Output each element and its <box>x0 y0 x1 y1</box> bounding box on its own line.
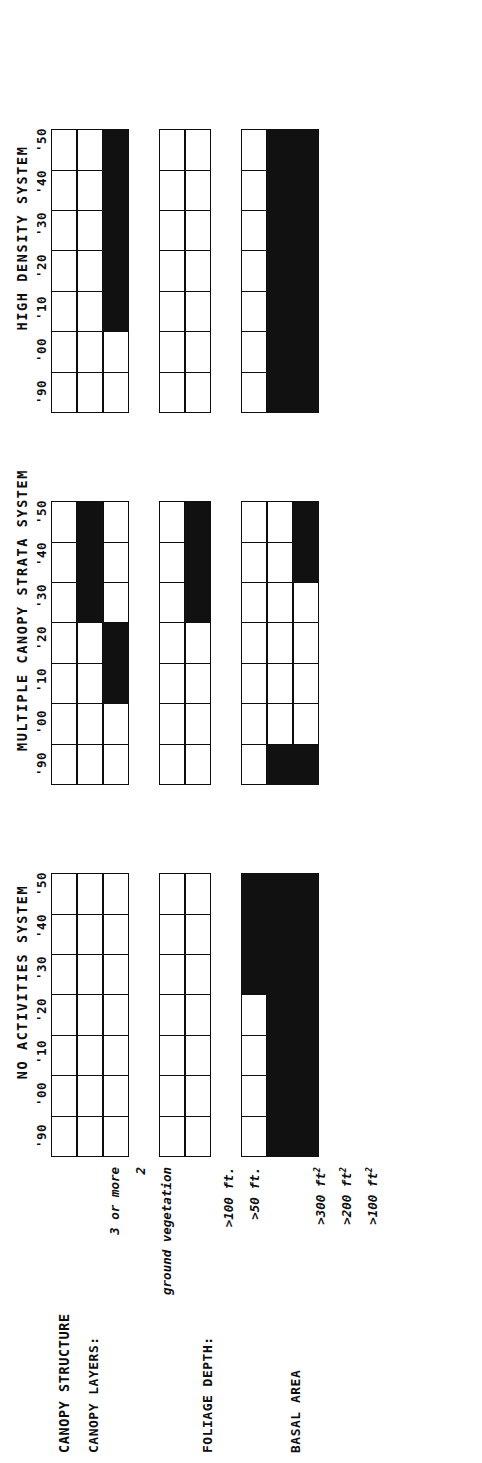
cell-filled <box>267 1115 293 1157</box>
grid-row <box>185 502 211 785</box>
cell-empty <box>185 913 211 955</box>
cell-filled <box>293 1115 319 1157</box>
stub-row-list: 3 or more2ground vegetation <box>102 1157 180 1457</box>
cell-empty <box>51 1034 77 1076</box>
cell-empty <box>159 913 185 955</box>
cell-filled <box>267 1075 293 1117</box>
cell-filled <box>293 290 319 332</box>
cell-empty <box>77 743 103 785</box>
cell-empty <box>241 662 267 704</box>
metric-grid <box>159 874 211 1157</box>
stub-group: CANOPY LAYERS:3 or more2ground vegetatio… <box>86 1157 180 1457</box>
cell-filled <box>241 873 267 915</box>
cell-empty <box>77 994 103 1036</box>
cell-empty <box>241 1034 267 1076</box>
grid-row <box>103 130 129 413</box>
metric-grid <box>51 502 129 785</box>
year-tick-label: '20 <box>34 617 49 659</box>
figure-title: CANOPY STRUCTURE <box>56 1157 72 1453</box>
year-tick-label: '00 <box>34 1073 49 1115</box>
grid-spacer <box>149 51 159 413</box>
cell-empty <box>51 913 77 955</box>
cell-empty <box>77 209 103 251</box>
cell-empty <box>293 581 319 623</box>
grid-row <box>293 130 319 413</box>
cell-filled <box>185 581 211 623</box>
cell-filled <box>293 541 319 583</box>
cell-empty <box>159 129 185 171</box>
cell-filled <box>103 250 129 292</box>
year-tick-label: '30 <box>34 203 49 245</box>
year-axis: '90'00'10'20'30'40'50 <box>34 51 49 413</box>
grid-row <box>293 502 319 785</box>
cell-empty <box>103 703 129 745</box>
cell-empty <box>185 129 211 171</box>
cell-filled <box>267 169 293 211</box>
cell-filled <box>267 129 293 171</box>
cell-filled <box>267 1034 293 1076</box>
cell-empty <box>159 541 185 583</box>
stub-row-label: ground vegetation <box>154 1157 180 1457</box>
panel-1: NO ACTIVITIES SYSTEM'90'00'10'20'30'40'5… <box>14 785 339 1157</box>
year-tick-label: '50 <box>34 119 49 161</box>
year-tick-label: '90 <box>34 743 49 785</box>
cell-filled <box>293 501 319 543</box>
grid-spacer <box>231 51 241 413</box>
cell-empty <box>51 994 77 1036</box>
cell-empty <box>77 371 103 413</box>
stub-group-title: CANOPY LAYERS: <box>86 1157 101 1453</box>
cell-empty <box>159 169 185 211</box>
grid-row <box>241 874 267 1157</box>
cell-empty <box>185 873 211 915</box>
cell-empty <box>267 662 293 704</box>
cell-empty <box>185 290 211 332</box>
cell-empty <box>185 1034 211 1076</box>
stub-row-label: >200 ft2 <box>330 1157 356 1457</box>
cell-filled <box>293 953 319 995</box>
grid-row <box>185 130 211 413</box>
stub-row-label: >100 ft2 <box>356 1157 382 1457</box>
year-tick-label: '90 <box>34 371 49 413</box>
cell-empty <box>185 994 211 1036</box>
cell-empty <box>185 169 211 211</box>
cell-empty <box>241 541 267 583</box>
year-tick-label: '40 <box>34 533 49 575</box>
grid-row <box>51 502 77 785</box>
cell-empty <box>159 743 185 785</box>
cell-empty <box>159 953 185 995</box>
grid-row <box>159 130 185 413</box>
grid-row <box>103 874 129 1157</box>
cell-empty <box>159 662 185 704</box>
cell-filled <box>77 581 103 623</box>
panel-title: MULTIPLE CANOPY STRATA SYSTEM <box>14 423 30 785</box>
cell-filled <box>267 331 293 373</box>
cell-empty <box>185 662 211 704</box>
cell-empty <box>77 290 103 332</box>
cell-empty <box>241 1075 267 1117</box>
cell-empty <box>103 994 129 1036</box>
cell-empty <box>51 250 77 292</box>
stub-group-list: CANOPY LAYERS:3 or more2ground vegetatio… <box>86 1157 382 1457</box>
cell-filled <box>77 541 103 583</box>
panel-title: NO ACTIVITIES SYSTEM <box>14 795 30 1157</box>
cell-filled <box>293 209 319 251</box>
cell-empty <box>51 501 77 543</box>
cell-empty <box>103 913 129 955</box>
cell-empty <box>103 743 129 785</box>
cell-empty <box>103 1034 129 1076</box>
cell-empty <box>77 1115 103 1157</box>
cell-filled <box>293 1075 319 1117</box>
year-tick-label: '90 <box>34 1115 49 1157</box>
cell-filled <box>293 994 319 1036</box>
stub-row-label: 3 or more <box>102 1157 128 1457</box>
grid-row <box>77 874 103 1157</box>
stub-group: FOLIAGE DEPTH:>100 ft.>50 ft. <box>200 1157 268 1457</box>
cell-filled <box>185 501 211 543</box>
stub-group-title: BASAL AREA <box>288 1157 303 1453</box>
cell-empty <box>267 501 293 543</box>
cell-empty <box>51 290 77 332</box>
cell-empty <box>293 703 319 745</box>
cell-empty <box>51 581 77 623</box>
grid-row <box>159 874 185 1157</box>
stub-row-label: >50 ft. <box>242 1157 268 1457</box>
